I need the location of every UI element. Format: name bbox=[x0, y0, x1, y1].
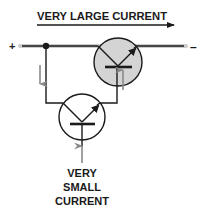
title-label: VERY LARGE CURRENT bbox=[37, 10, 167, 22]
small-current-label-line1: VERY bbox=[67, 167, 97, 179]
small-current-label-line2: SMALL bbox=[63, 181, 101, 193]
positive-terminal-label: + bbox=[9, 40, 15, 52]
darlington-pair-diagram: VERY LARGE CURRENT + – bbox=[0, 0, 203, 213]
large-transistor bbox=[94, 38, 142, 86]
small-transistor bbox=[59, 94, 105, 147]
emitter-to-base-wire bbox=[100, 86, 117, 103]
negative-terminal-label: – bbox=[190, 40, 197, 54]
small-current-label-line3: CURRENT bbox=[55, 195, 109, 207]
collector-feed-wire bbox=[46, 46, 63, 103]
large-transistor-body bbox=[94, 38, 142, 86]
